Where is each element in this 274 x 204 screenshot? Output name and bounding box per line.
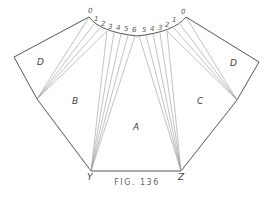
region-b-label: B	[72, 96, 78, 106]
pattern-development-drawing	[0, 0, 274, 204]
tick-right-2: 2	[165, 21, 169, 29]
tick-left-6: 6	[132, 26, 136, 34]
region-c-label: C	[197, 96, 203, 106]
tick-right-1: 1	[172, 16, 176, 24]
tick-left-4: 4	[116, 24, 120, 32]
region-d-right-label: D	[230, 58, 237, 68]
tick-right-5: 5	[142, 26, 146, 34]
region-d-left-label: D	[37, 57, 44, 67]
tick-right-4: 4	[150, 25, 154, 33]
tick-right-3: 3	[158, 24, 162, 32]
tick-left-3: 3	[108, 23, 112, 31]
tick-left-1: 1	[94, 15, 98, 23]
left-d-outline	[14, 17, 91, 171]
figure-caption: FIG. 136	[0, 178, 274, 187]
region-a-label: A	[133, 122, 139, 132]
tick-left-2: 2	[101, 20, 105, 28]
tick-right-0: 0	[181, 8, 185, 16]
tick-left-5: 5	[124, 25, 128, 33]
tick-left-0: 0	[88, 7, 92, 15]
right-d-outline	[181, 17, 259, 171]
